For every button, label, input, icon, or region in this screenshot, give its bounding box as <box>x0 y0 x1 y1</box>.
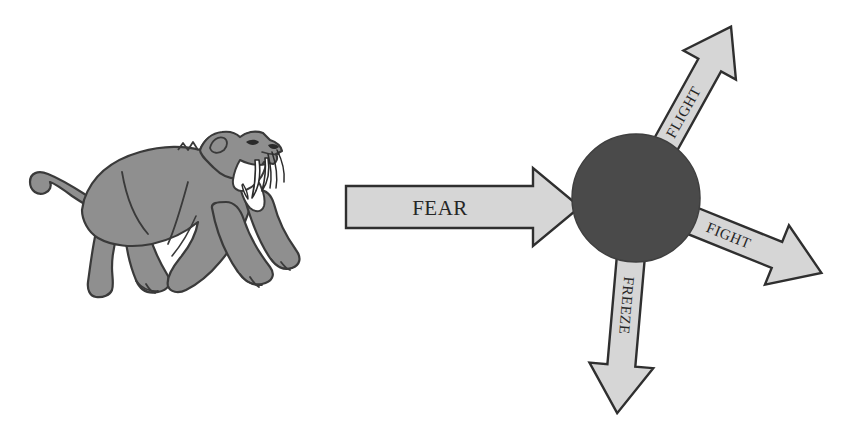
diagram-canvas: FEAR FLIGHT FIGHT FREEZE <box>0 0 855 440</box>
cat-tail <box>30 172 90 207</box>
arrow-fear: FEAR <box>346 168 580 246</box>
arrow-freeze[interactable]: FREEZE <box>585 235 664 416</box>
fear-response-diagram: FEAR FLIGHT FIGHT FREEZE <box>0 0 855 440</box>
arrow-fear-label: FEAR <box>412 196 468 220</box>
response-hub-circle[interactable] <box>572 134 700 262</box>
saber-toothed-cat-illustration <box>30 132 299 298</box>
